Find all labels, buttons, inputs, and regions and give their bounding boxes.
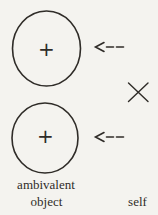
x-mark-icon bbox=[129, 83, 149, 102]
dashed-left-arrow-top bbox=[96, 43, 124, 52]
arrowhead-left-icon bbox=[96, 133, 105, 142]
label-ambivalent-object-line1: ambivalent bbox=[10, 177, 82, 192]
plus-icon-top: + bbox=[38, 38, 55, 58]
label-ambivalent-object-line2: object bbox=[10, 194, 83, 209]
label-self: self bbox=[116, 194, 158, 209]
arrowhead-left-icon bbox=[96, 43, 105, 52]
dashed-left-arrow-bottom bbox=[96, 133, 124, 142]
figure-canvas: + + ambivalent object self bbox=[0, 0, 158, 215]
plus-icon-bottom: + bbox=[37, 125, 54, 145]
